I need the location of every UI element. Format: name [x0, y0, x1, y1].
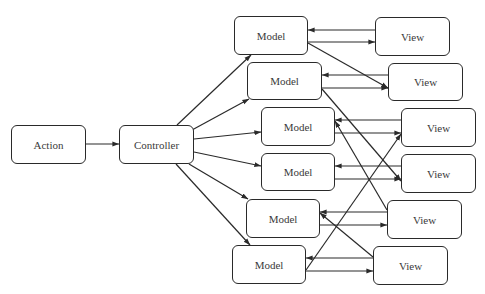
node-action[interactable]: Action [11, 125, 86, 164]
edge-controller-to-model5 [189, 164, 248, 199]
node-label: View [401, 31, 424, 43]
node-view1[interactable]: View [375, 17, 450, 56]
edge-controller-to-model3 [194, 132, 261, 139]
node-label: Action [34, 139, 64, 151]
edge-controller-to-model6 [176, 164, 250, 245]
node-label: Model [284, 166, 313, 178]
node-label: Model [270, 75, 299, 87]
node-label: Model [257, 30, 286, 42]
node-label: Model [284, 121, 313, 133]
node-model4[interactable]: Model [261, 153, 335, 191]
edge-controller-to-model1 [177, 55, 251, 125]
node-label: Model [269, 213, 298, 225]
node-label: View [427, 168, 450, 180]
node-label: View [399, 260, 422, 272]
edge-controller-to-model2 [192, 99, 249, 130]
node-model1[interactable]: Model [234, 16, 308, 55]
node-view6[interactable]: View [373, 246, 448, 285]
node-view5[interactable]: View [387, 200, 462, 239]
node-label: Model [255, 259, 284, 271]
node-model5[interactable]: Model [246, 199, 320, 238]
node-label: Controller [134, 139, 179, 151]
node-view4[interactable]: View [401, 154, 476, 193]
node-model6[interactable]: Model [232, 245, 306, 284]
node-model3[interactable]: Model [261, 107, 335, 146]
node-label: View [427, 122, 450, 134]
node-controller[interactable]: Controller [119, 125, 194, 164]
edge-view6-to-model5 [320, 213, 373, 257]
node-view2[interactable]: View [388, 63, 463, 101]
node-label: View [413, 214, 436, 226]
node-model2[interactable]: Model [247, 62, 322, 100]
edge-controller-to-model4 [194, 152, 261, 166]
diagram-canvas: ActionControllerModelModelModelModelMode… [0, 0, 485, 294]
node-view3[interactable]: View [401, 108, 476, 147]
node-label: View [414, 76, 437, 88]
